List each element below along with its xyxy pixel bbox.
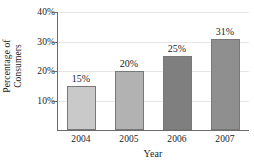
x-axis-tick-label: 2005 [107,133,151,145]
bar-value-label: 20% [107,58,151,69]
plot-area: 15%20%25%31% [57,12,249,130]
y-axis-title-line-2: Consumers [13,39,24,92]
bar-value-label: 31% [203,26,247,37]
y-axis-tick-label: 40% [25,7,55,17]
bar [67,86,96,130]
y-axis-tick-label: 30% [25,37,55,47]
bar-chart-figure: Percentage of Consumers 10%20%30%40% 15%… [0,0,254,166]
x-axis-tick-labels: 2004200520062007 [57,133,249,147]
y-axis-tick-label: 10% [25,96,55,106]
y-axis-tick-labels: 10%20%30%40% [24,0,55,132]
y-axis-tick-mark [52,12,58,13]
x-axis-line [57,130,249,131]
bar [115,71,144,130]
bar [163,56,192,130]
bar [211,39,240,130]
x-axis-tick-label: 2007 [203,133,247,145]
y-axis-title: Percentage of Consumers [0,0,26,132]
bar-value-label: 25% [155,43,199,54]
y-axis-tick-mark [52,42,58,43]
x-axis-tick-label: 2006 [155,133,199,145]
x-axis-title: Year [57,148,249,160]
y-axis-title-line-1: Percentage of [2,39,13,92]
y-axis-tick-mark [52,71,58,72]
y-axis-tick-mark [52,101,58,102]
gridline [57,12,249,13]
bar-value-label: 15% [59,73,103,84]
y-axis-tick-label: 20% [25,66,55,76]
x-axis-tick-label: 2004 [59,133,103,145]
